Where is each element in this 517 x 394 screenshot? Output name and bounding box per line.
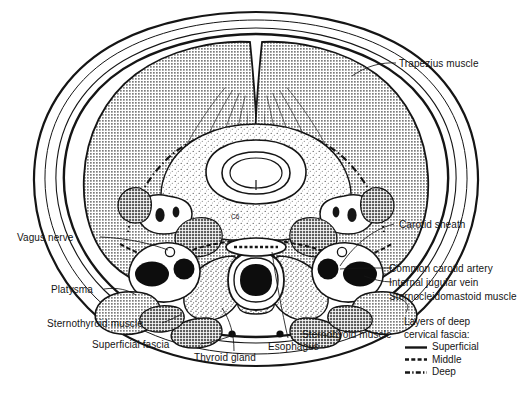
legend-key-solid-icon: [404, 344, 428, 351]
label-trapezius-muscle: Trapezius muscle: [399, 58, 479, 69]
label-platysma: Platysma: [51, 284, 93, 295]
legend-label-middle: Middle: [432, 354, 461, 367]
label-esophagus: Esophagus: [268, 341, 319, 352]
anterior-jugular-vein-right: [276, 330, 283, 337]
legend-label-deep: Deep: [432, 366, 456, 379]
vertebral-level-label: C6: [231, 213, 240, 220]
legend-title-line1: Layers of deep: [404, 316, 479, 329]
fascia-legend: Layers of deep cervical fascia: Superfic…: [404, 316, 479, 379]
common-carotid-artery-left: [174, 259, 195, 280]
common-carotid-artery-right: [318, 259, 339, 280]
scalene-right: [361, 188, 394, 223]
label-superficial-fascia: Superficial fascia: [92, 339, 169, 350]
label-thyroid-gland: Thyroid gland: [194, 352, 256, 363]
internal-jugular-vein-left: [135, 262, 169, 287]
label-sternothyroid-muscle: Sternothyroid muscle: [47, 318, 143, 329]
legend-key-dash-dot-icon: [404, 369, 428, 376]
trachea-lumen: [240, 264, 272, 296]
legend-entry-middle: Middle: [404, 354, 479, 367]
vagus-nerve-right: [337, 247, 346, 256]
internal-jugular-vein-right: [343, 262, 377, 287]
label-internal-jugular-vein: Internal jugular vein: [389, 277, 478, 288]
legend-title-line2: cervical fascia:: [404, 329, 479, 342]
label-sternohyoid-muscle: Sternohyoid muscle: [302, 329, 392, 340]
transverse-foramen-right: [347, 208, 356, 222]
legend-entry-superficial: Superficial: [404, 341, 479, 354]
label-carotid-sheath: Carotid sheath: [399, 219, 465, 230]
legend-entry-deep: Deep: [404, 366, 479, 379]
vagus-nerve-left: [165, 247, 174, 256]
scalene-left: [118, 188, 151, 223]
transverse-foramen-left: [155, 208, 164, 222]
legend-key-dashed-icon: [404, 356, 428, 363]
label-vagus-nerve: Vagus nerve: [17, 232, 74, 243]
legend-label-superficial: Superficial: [432, 341, 479, 354]
sternothyroid-left: [140, 306, 185, 332]
label-common-carotid-artery: Common carotid artery: [389, 263, 493, 274]
label-sternocleidomastoid-muscle: Sternocleidomastoid muscle: [389, 291, 517, 302]
